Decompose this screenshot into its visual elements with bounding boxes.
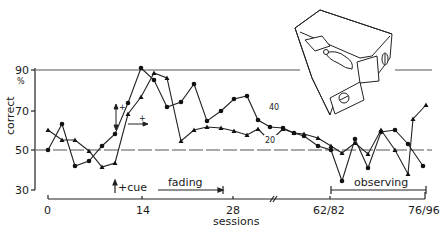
chart-figure: 90 % 70 50 30 correct 0 14 28 62/82 76/9… (0, 0, 445, 228)
x-tick-76-96: 76/96 (408, 204, 440, 217)
y-tick-90: 90 (15, 64, 29, 77)
apparatus-illustration (295, 10, 392, 115)
x-axis-title: sessions (213, 215, 260, 228)
x-tick-0: 0 (44, 204, 51, 217)
series-40-label: 40 (269, 103, 279, 112)
x-axis (48, 192, 425, 202)
x-tick-62-82: 62/82 (313, 204, 345, 217)
series-20-line (48, 73, 426, 174)
y-tick-70: 70 (15, 105, 29, 118)
fading-label: fading (168, 176, 203, 189)
y-tick-30: 30 (15, 184, 29, 197)
plus-arrow-vertical (114, 104, 118, 130)
y-tick-50: 50 (15, 144, 29, 157)
cue-marker (113, 180, 117, 193)
y-unit-percent: % (17, 77, 25, 86)
series-40-line (48, 68, 423, 181)
x-tick-14: 14 (136, 204, 150, 217)
cue-label: +cue (118, 181, 147, 194)
observing-label: observing (354, 176, 408, 189)
y-axis (31, 68, 35, 190)
y-axis-title: correct (4, 96, 17, 135)
plus-label-b: + (139, 114, 146, 123)
series-20-label: 20 (265, 136, 275, 145)
